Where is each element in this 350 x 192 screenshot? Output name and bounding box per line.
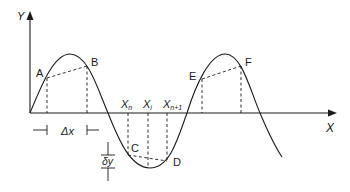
point-label-f: F — [245, 56, 252, 68]
point-label-e: E — [189, 70, 196, 82]
y-axis-arrow-icon — [27, 11, 34, 20]
point-label-c: C — [131, 142, 139, 154]
sine-diagram: Δx δy Y X A B C D E F Xn Xi Xn+1 — [0, 0, 350, 192]
sine-curve — [30, 54, 282, 168]
x-axis-label: X — [325, 121, 335, 135]
y-axis-label: Y — [17, 10, 25, 22]
delta-x-label: Δx — [60, 125, 74, 137]
secant-e-f — [202, 66, 241, 79]
marker-xn1: Xn+1 — [162, 98, 182, 111]
point-label-a: A — [36, 67, 44, 79]
point-label-d: D — [173, 156, 181, 168]
marker-xi: Xi — [142, 98, 152, 111]
point-label-b: B — [91, 56, 98, 68]
x-axis-arrow-icon — [328, 110, 337, 117]
delta-y-label: δy — [102, 155, 114, 167]
secant-a-b — [47, 66, 87, 78]
marker-xn: Xn — [120, 98, 132, 111]
